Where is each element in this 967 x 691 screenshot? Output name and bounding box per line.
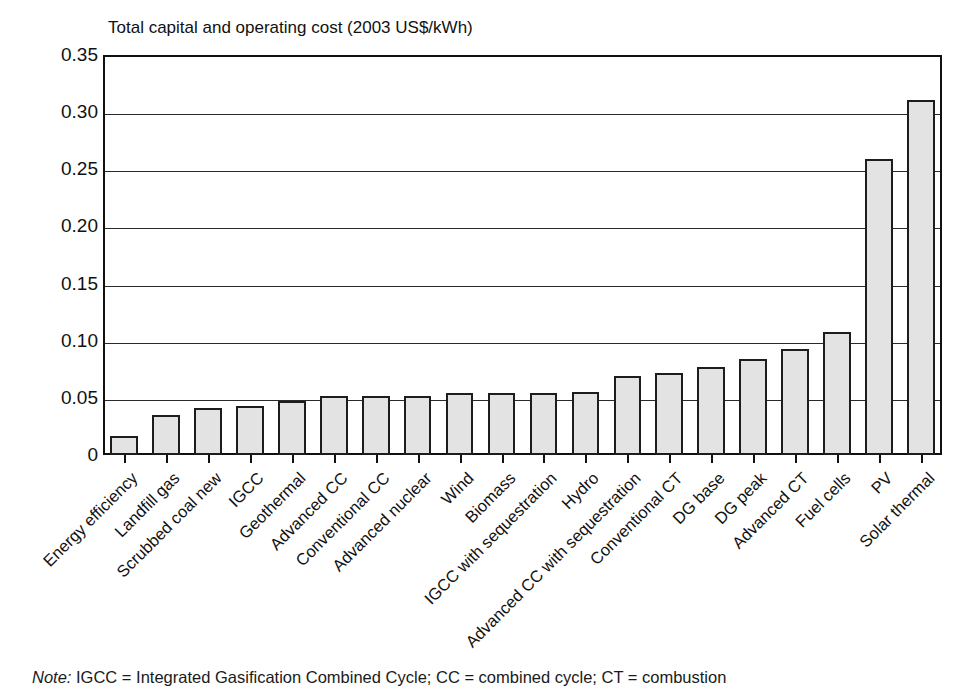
plot-area [103, 55, 942, 455]
y-axis-tick-label: 0.30 [32, 102, 98, 121]
gridline [105, 114, 940, 115]
gridline [105, 400, 940, 401]
gridline [105, 228, 940, 229]
gridline [105, 171, 940, 172]
y-axis-tick-label: 0.35 [32, 45, 98, 64]
x-axis-category-label-text: PV [868, 469, 896, 497]
x-axis-labels: Energy efficiencyLandfill gasScrubbed co… [0, 455, 967, 655]
gridline [105, 343, 940, 344]
note-text: IGCC = Integrated Gasification Combined … [71, 668, 726, 686]
y-axis: 0.350.300.250.200.150.100.050 [20, 55, 98, 455]
y-axis-tick-label: 0.05 [32, 388, 98, 407]
y-axis-tick-label: 0.20 [32, 216, 98, 235]
y-axis-tick-label: 0.25 [32, 159, 98, 178]
y-axis-tick-label: 0.10 [32, 331, 98, 350]
y-axis-tick-label: 0.15 [32, 274, 98, 293]
note-label: Note: [32, 668, 71, 686]
gridline [105, 286, 940, 287]
chart-title: Total capital and operating cost (2003 U… [108, 18, 473, 38]
chart-note: Note: IGCC = Integrated Gasification Com… [32, 668, 952, 687]
